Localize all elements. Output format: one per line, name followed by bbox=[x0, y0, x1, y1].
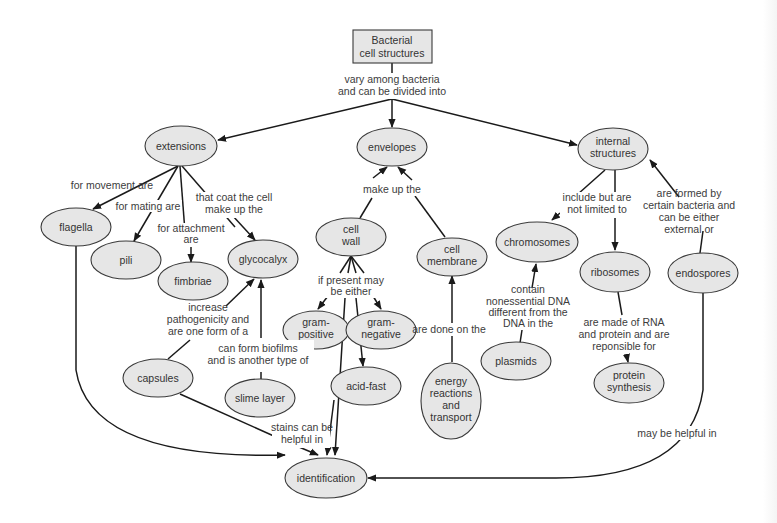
svg-text:be either: be either bbox=[331, 285, 372, 297]
node-plasmids: plasmids bbox=[481, 342, 551, 380]
node-label: energy bbox=[435, 375, 468, 387]
node-label: flagella bbox=[59, 221, 92, 233]
svg-text:are: are bbox=[183, 233, 198, 245]
link-label-made-of: are made of RNA and protein and are repo… bbox=[578, 316, 669, 352]
svg-text:and can be divided into: and can be divided into bbox=[338, 85, 446, 97]
svg-text:for movement are: for movement are bbox=[71, 179, 153, 191]
link-label-increase: increase pathogenicity and are one form … bbox=[167, 301, 249, 337]
svg-text:certain bacteria and: certain bacteria and bbox=[643, 199, 735, 211]
node-label: protein bbox=[613, 369, 645, 381]
node-label: membrane bbox=[427, 255, 477, 267]
svg-text:that coat the cell: that coat the cell bbox=[196, 191, 272, 203]
svg-text:are made of RNA: are made of RNA bbox=[583, 316, 664, 328]
node-label: extensions bbox=[156, 140, 206, 152]
svg-text:may be helpful in: may be helpful in bbox=[637, 427, 717, 439]
node-label: reactions bbox=[430, 387, 473, 399]
node-label: cell structures bbox=[360, 47, 425, 59]
node-capsules: capsules bbox=[123, 359, 193, 397]
node-label: cell bbox=[343, 223, 359, 235]
node-label: envelopes bbox=[368, 141, 416, 153]
svg-text:are one form of a: are one form of a bbox=[168, 325, 248, 337]
node-label: cell bbox=[444, 243, 460, 255]
node-cell-wall: cell wall bbox=[316, 218, 386, 256]
link-label-may-help: may be helpful in bbox=[636, 426, 720, 440]
node-label: Bacterial bbox=[372, 34, 413, 46]
svg-text:make up the: make up the bbox=[205, 203, 263, 215]
node-envelopes: envelopes bbox=[357, 128, 427, 166]
node-extensions: extensions bbox=[145, 126, 217, 166]
node-label: glycocalyx bbox=[239, 253, 288, 265]
link-label-coat: that coat the cell make up the bbox=[193, 191, 275, 218]
node-label: synthesis bbox=[607, 381, 651, 393]
link-label-if-present: if present may be either bbox=[314, 274, 390, 298]
node-label: positive bbox=[298, 328, 334, 340]
svg-text:contain: contain bbox=[511, 283, 545, 295]
node-cell-membrane: cell membrane bbox=[417, 238, 487, 276]
svg-text:can form biofilms: can form biofilms bbox=[218, 342, 297, 354]
node-endospores: endospores bbox=[668, 253, 738, 293]
svg-text:increase: increase bbox=[188, 301, 228, 313]
node-label: capsules bbox=[137, 372, 178, 384]
node-label: acid-fast bbox=[346, 380, 386, 392]
node-slime-layer: slime layer bbox=[225, 379, 295, 417]
svg-text:are formed by: are formed by bbox=[657, 187, 723, 199]
link-label-biofilms: can form biofilms and is another type of bbox=[202, 340, 314, 368]
node-fimbriae: fimbriae bbox=[158, 262, 228, 300]
link-label-include: include but are not limited to bbox=[560, 191, 636, 218]
node-label: internal bbox=[596, 135, 630, 147]
link-label-vary: vary among bacteria and can be divided i… bbox=[330, 73, 454, 99]
svg-text:reponsible for: reponsible for bbox=[592, 340, 656, 352]
node-label: gram- bbox=[367, 316, 395, 328]
svg-text:can be either: can be either bbox=[659, 211, 720, 223]
node-label: structures bbox=[590, 147, 636, 159]
svg-text:pathogenicity and: pathogenicity and bbox=[167, 313, 249, 325]
link-label-contain: contain nonessential DNA different from … bbox=[486, 283, 570, 329]
node-identification: identification bbox=[285, 458, 367, 498]
svg-text:external or: external or bbox=[664, 223, 714, 235]
link-label-attachment: for attachment are bbox=[155, 222, 227, 247]
svg-text:DNA in the: DNA in the bbox=[503, 317, 553, 329]
node-label: transport bbox=[430, 411, 472, 423]
svg-text:include but are: include but are bbox=[563, 191, 632, 203]
node-chromosomes: chromosomes bbox=[496, 222, 578, 262]
svg-text:not limited to: not limited to bbox=[567, 203, 627, 215]
node-gram-negative: gram- negative bbox=[346, 311, 416, 349]
node-label: pili bbox=[120, 254, 133, 266]
link-label-movement: for movement are bbox=[71, 179, 153, 191]
node-label: and bbox=[442, 399, 460, 411]
node-ribosomes: ribosomes bbox=[580, 252, 650, 292]
svg-text:and protein and are: and protein and are bbox=[578, 328, 669, 340]
node-pili: pili bbox=[91, 241, 161, 279]
node-label: wall bbox=[341, 235, 360, 247]
node-protein-synthesis: protein synthesis bbox=[594, 363, 664, 403]
link-label-mating: for mating are bbox=[114, 200, 182, 212]
node-energy-reactions-transport: energy reactions and transport bbox=[421, 363, 481, 439]
svg-text:are done on the: are done on the bbox=[412, 323, 486, 335]
link-label-stains: stains can be helpful in bbox=[271, 420, 333, 448]
node-label: slime layer bbox=[235, 392, 286, 404]
node-flagella: flagella bbox=[41, 208, 111, 246]
node-acid-fast: acid-fast bbox=[331, 367, 401, 405]
node-label: negative bbox=[361, 328, 401, 340]
node-label: identification bbox=[297, 472, 356, 484]
link-label-done-on: are done on the bbox=[412, 323, 497, 336]
svg-text:for mating are: for mating are bbox=[116, 200, 181, 212]
node-internal-structures: internal structures bbox=[578, 128, 648, 170]
svg-text:stains can be: stains can be bbox=[271, 421, 333, 433]
link-label-formed-by: are formed by certain bacteria and can b… bbox=[643, 187, 735, 235]
node-label: ribosomes bbox=[591, 266, 639, 278]
link-label-make-up: make up the bbox=[362, 182, 422, 196]
svg-text:and is another type of: and is another type of bbox=[208, 354, 309, 366]
node-label: endospores bbox=[676, 267, 731, 279]
svg-text:helpful in: helpful in bbox=[281, 433, 323, 445]
concept-map: Bacterial cell structures extensions env… bbox=[0, 0, 777, 523]
node-label: chromosomes bbox=[504, 236, 570, 248]
svg-text:vary among bacteria: vary among bacteria bbox=[344, 73, 439, 85]
svg-text:make up the: make up the bbox=[363, 183, 421, 195]
node-label: fimbriae bbox=[174, 275, 212, 287]
node-glycocalyx: glycocalyx bbox=[228, 240, 298, 278]
node-label: gram- bbox=[302, 316, 330, 328]
node-bacterial-cell-structures: Bacterial cell structures bbox=[353, 30, 432, 63]
node-label: plasmids bbox=[495, 355, 536, 367]
